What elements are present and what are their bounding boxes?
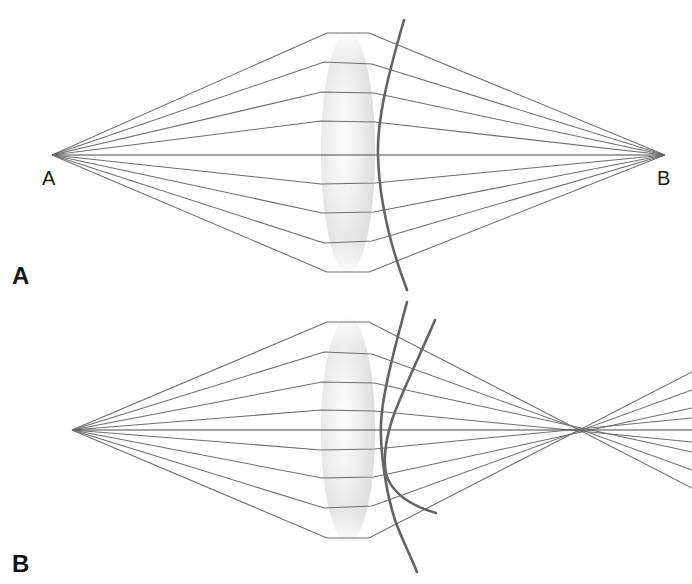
image-point-label-b: B: [657, 167, 670, 190]
panel-a: A A B: [0, 0, 692, 292]
panel-label-a: A: [12, 262, 29, 290]
object-point-label-a: A: [42, 167, 55, 190]
lens-element: [321, 32, 375, 272]
panel-b: B: [0, 292, 692, 584]
panel-label-b: B: [12, 550, 29, 578]
panel-a-diagram: [0, 0, 692, 292]
optics-figure: A A B: [0, 0, 692, 584]
panel-b-diagram: [0, 292, 692, 584]
